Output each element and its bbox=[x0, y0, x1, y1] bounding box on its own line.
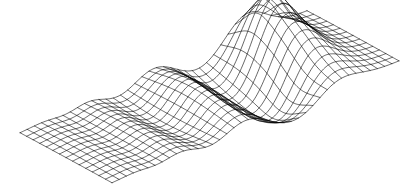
mesh-line-u bbox=[66, 21, 353, 157]
mesh-line-v bbox=[300, 13, 392, 63]
mesh-line-v bbox=[42, 123, 134, 173]
mesh-line-v bbox=[192, 71, 284, 123]
mesh-line-v bbox=[49, 120, 141, 170]
mesh-line-u bbox=[20, 11, 307, 133]
mesh-line-v bbox=[106, 99, 198, 149]
mesh-line-v bbox=[20, 133, 112, 183]
mesh-line-u bbox=[46, 0, 333, 147]
mesh-line-v bbox=[207, 63, 299, 121]
figure-root bbox=[0, 0, 417, 194]
mesh-line-u bbox=[105, 57, 392, 179]
mesh-line-v bbox=[99, 100, 191, 150]
mesh-surface-plot bbox=[0, 0, 417, 194]
mesh-line-v bbox=[113, 98, 205, 147]
mesh-line-u bbox=[112, 61, 399, 183]
mesh-v-gridlines bbox=[20, 0, 399, 183]
mesh-line-v bbox=[120, 95, 212, 144]
mesh-line-v bbox=[142, 77, 234, 128]
mesh-line-v bbox=[27, 129, 119, 179]
